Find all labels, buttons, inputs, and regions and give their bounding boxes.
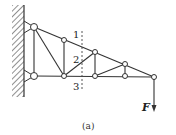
member-label-3: 3 (73, 81, 79, 92)
fixed-wall (12, 5, 24, 97)
force-label: F (141, 101, 151, 114)
joint (93, 50, 98, 55)
joint (31, 24, 38, 31)
figure-caption: (a) (82, 121, 94, 131)
joint (93, 74, 98, 79)
joint (31, 73, 38, 80)
joint (152, 75, 157, 80)
truss-diagram: 1 2 3 F (a) (0, 0, 176, 135)
member-label-2: 2 (73, 54, 79, 65)
joint (123, 62, 128, 67)
joint (62, 74, 67, 79)
member-label-1: 1 (73, 29, 79, 40)
joint (62, 38, 67, 43)
load-arrow-icon (152, 79, 157, 112)
joint (123, 74, 128, 79)
